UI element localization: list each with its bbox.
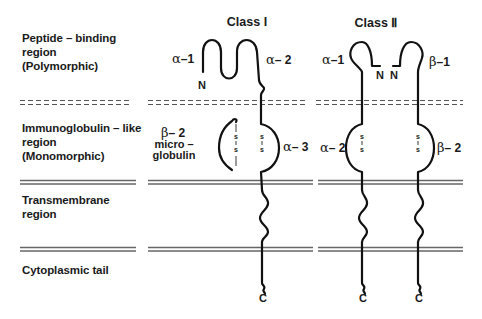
label-class-ii-beta1: β–1 [429,54,450,69]
class-i-ss-bottom: s [260,146,264,153]
label-b2m-globulin: globulin [153,149,196,161]
beta2-microglobulin-chain [219,119,237,170]
class-i-n-terminus: N [198,79,206,91]
separator-dashed [20,101,463,105]
class-ii-alpha-c-terminus: C [359,292,367,304]
b2m-ss-bottom: s [234,146,238,153]
class-ii-beta-ss-bottom: s [416,146,420,153]
label-class-i-alpha2: α– 2 [266,52,292,67]
class-i-heavy-chain [203,40,279,294]
mhc-structure-diagram: Class I s s s s α–1 α– 2 α– 3 N C β– 2 m… [0,0,482,319]
class-i-ss-top: s [260,133,264,140]
b2m-ss-top: s [234,133,238,140]
label-class-ii-alpha1: α–1 [322,52,344,67]
class-ii-beta-n-terminus: N [390,69,398,81]
class-ii-alpha-ss-bottom: s [360,146,364,153]
class-ii-beta-c-terminus: C [415,292,423,304]
class-ii-alpha-n-terminus: N [376,69,384,81]
class-i-title: Class I [227,15,267,29]
separator-membrane-outer [20,181,463,185]
label-class-ii-beta2: β– 2 [437,140,462,155]
label-class-ii-alpha2: α– 2 [320,140,346,155]
class-ii-beta-ss-top: s [416,133,420,140]
class-ii-beta-chain [393,42,434,294]
class-ii-title: Class Ⅱ [355,16,398,30]
label-class-i-alpha3: α– 3 [283,139,309,154]
class-ii-alpha-chain [346,42,380,294]
separator-membrane-inner [20,248,463,252]
class-i-c-terminus: C [259,292,267,304]
label-class-i-alpha1: α–1 [172,51,194,66]
class-ii-alpha-ss-top: s [360,133,364,140]
